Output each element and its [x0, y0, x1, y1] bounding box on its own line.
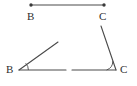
ray-b-upper	[19, 42, 58, 70]
geometry-figure: B C B C	[0, 0, 137, 86]
label-segment-b: B	[27, 11, 34, 22]
ray-c-upper	[101, 26, 116, 70]
label-angle-c: C	[120, 64, 127, 75]
figure-vector-layer	[0, 0, 137, 86]
label-angle-b: B	[6, 64, 13, 75]
angle-arc-b-icon	[26, 63, 29, 70]
angle-arc-c-icon	[107, 61, 113, 70]
point-c-marker	[102, 3, 105, 6]
label-segment-c: C	[99, 11, 106, 22]
point-b-marker	[29, 3, 32, 6]
